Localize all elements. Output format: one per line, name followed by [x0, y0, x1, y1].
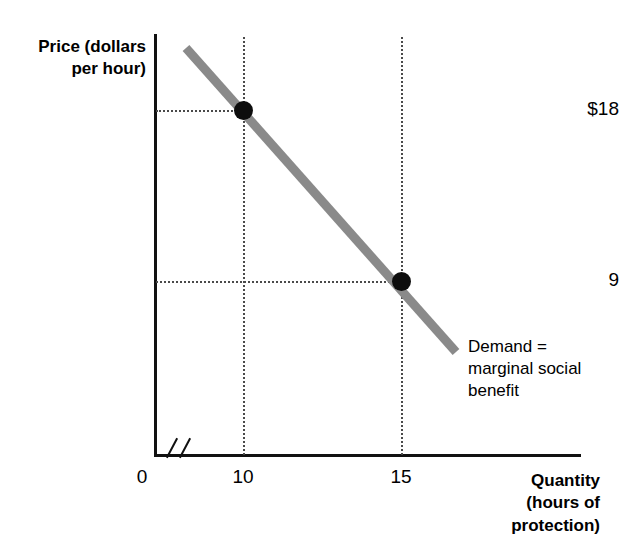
guide-line-price-9 — [156, 281, 402, 283]
data-point-10-18 — [234, 101, 253, 120]
y-axis-title-line-2: per hour) — [0, 58, 146, 80]
x-axis-title-line-2: (hours of — [380, 492, 600, 514]
guide-line-price-18 — [156, 110, 244, 112]
y-axis-line — [154, 34, 157, 456]
demand-curve-label: Demand = marginal social benefit — [468, 336, 618, 402]
x-axis-break-icon — [164, 437, 198, 459]
x-axis-title: Quantity (hours of protection) — [380, 470, 600, 537]
y-axis-title: Price (dollars per hour) — [0, 36, 146, 81]
data-point-15-9 — [392, 272, 411, 291]
x-axis-title-line-3: protection) — [380, 515, 600, 537]
demand-curve-label-line-1: Demand = — [468, 336, 618, 358]
chart-figure: $18 9 0 10 15 Price (dollars per hour) Q… — [0, 0, 619, 546]
x-axis-line — [154, 454, 581, 457]
y-tick-label-18: $18 — [473, 98, 619, 120]
x-tick-label-0: 0 — [137, 466, 148, 488]
x-tick-label-10: 10 — [232, 466, 253, 488]
x-axis-title-line-1: Quantity — [380, 470, 600, 492]
demand-curve-label-line-3: benefit — [468, 380, 618, 402]
guide-line-quantity-15 — [401, 37, 403, 455]
y-tick-label-9: 9 — [473, 269, 619, 291]
guide-line-quantity-10 — [243, 37, 245, 455]
demand-curve-label-line-2: marginal social — [468, 358, 618, 380]
y-axis-title-line-1: Price (dollars — [0, 36, 146, 58]
